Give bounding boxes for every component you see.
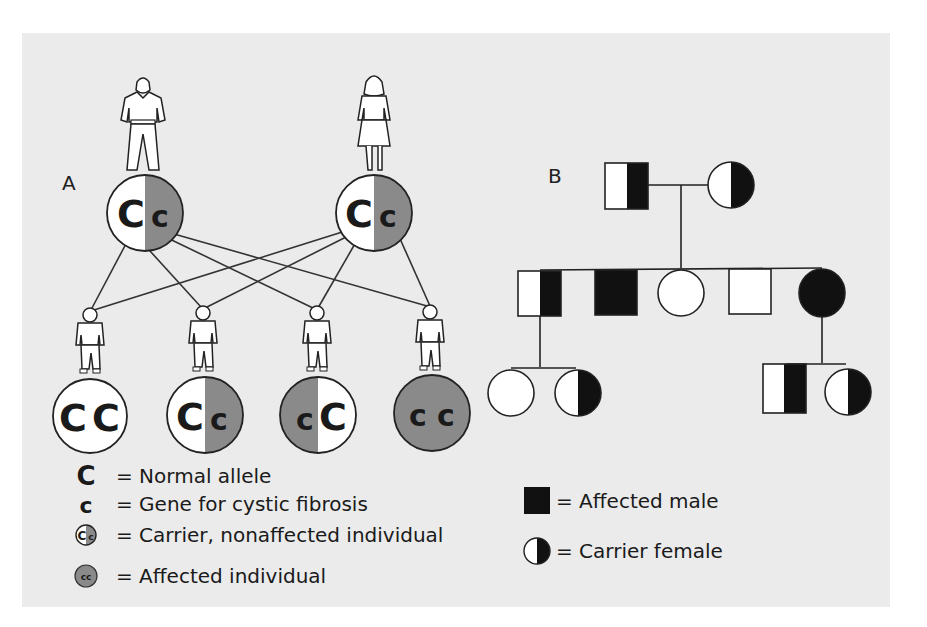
svg-text:c: c: [88, 532, 93, 542]
child-2-figure: [189, 306, 217, 371]
legend-text-affected: = Affected individual: [116, 564, 326, 588]
genetics-figure: A C c C c C C: [0, 0, 927, 627]
legend-text-normal-allele: = Normal allele: [116, 464, 271, 488]
svg-text:C: C: [176, 395, 204, 439]
svg-text:c: c: [210, 402, 228, 437]
legend-b: = Affected male = Carrier female: [524, 487, 723, 566]
child-1-figure: [76, 308, 104, 373]
pedigree-gen3-female-carrier-1: [555, 368, 604, 418]
legend-symbol-carrier: C c: [76, 524, 98, 546]
legend-text-carrier: = Carrier, nonaffected individual: [116, 523, 443, 547]
legend-symbol-affected: cc: [75, 565, 97, 587]
pedigree-gen2-male-affected: [595, 270, 637, 315]
parent-2-genotype: C c: [336, 170, 414, 260]
svg-text:C: C: [117, 192, 145, 236]
panel-a-label: A: [62, 171, 76, 195]
child-3-genotype: c C: [270, 370, 356, 460]
svg-text:c: c: [296, 402, 314, 437]
svg-text:C: C: [59, 396, 87, 440]
pedigree-gen2-female-normal: [658, 270, 704, 316]
child-1-genotype: C C: [53, 379, 127, 453]
pedigree-gen3-female-carrier-2: [825, 367, 874, 417]
pedigree-gen3-female-normal: [488, 370, 534, 416]
pedigree-gen1-male-carrier: [605, 163, 648, 209]
svg-text:C: C: [345, 192, 373, 236]
svg-text:C: C: [92, 396, 120, 440]
mother-figure: [358, 76, 390, 170]
pedigree-gen3-male-carrier: [763, 364, 806, 413]
pedigree-gen1-female-carrier: [708, 160, 757, 210]
pedigree-gen2-male-normal: [729, 269, 771, 314]
child-4-figure: [416, 305, 444, 370]
child-2-genotype: C c: [167, 370, 245, 460]
parent-1-genotype: C c: [107, 170, 185, 260]
pedigree-gen2-female-affected: [799, 269, 845, 317]
svg-text:c: c: [437, 398, 455, 433]
legend-symbol-cf-gene: c: [79, 493, 92, 518]
svg-text:cc: cc: [81, 572, 92, 582]
legend-symbol-normal-allele: C: [76, 461, 95, 491]
child-4-genotype: c c: [394, 375, 470, 451]
svg-text:C: C: [319, 395, 347, 439]
legend-a: C = Normal allele c = Gene for cystic fi…: [75, 461, 443, 588]
legend-symbol-carrier-female: [524, 536, 552, 566]
svg-text:c: c: [379, 199, 397, 234]
legend-symbol-affected-male: [524, 487, 550, 514]
legend-text-cf-gene: = Gene for cystic fibrosis: [116, 492, 368, 516]
father-figure: [121, 78, 165, 170]
svg-text:c: c: [409, 398, 427, 433]
svg-text:c: c: [151, 199, 169, 234]
legend-text-carrier-female: = Carrier female: [556, 539, 723, 563]
child-3-figure: [303, 306, 331, 371]
panel-b-label: B: [548, 164, 562, 188]
pedigree-gen2-male-carrier: [518, 271, 561, 316]
legend-text-affected-male: = Affected male: [556, 489, 719, 513]
svg-text:C: C: [78, 529, 87, 543]
